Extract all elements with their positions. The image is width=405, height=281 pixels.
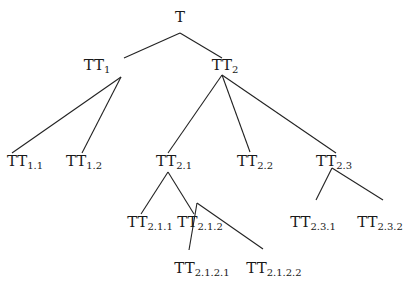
tree-node: TT1.2 [66, 152, 102, 171]
tree-edge [316, 168, 332, 200]
tree-node: TT2.3.2 [357, 213, 403, 232]
tree-edge [222, 75, 336, 153]
tree-node: TT2.1.2.1 [174, 259, 229, 278]
tree-edge [124, 33, 180, 58]
tree-edge [168, 172, 194, 214]
tree-node: TT2.2 [237, 152, 273, 171]
tree-node: TT2.1.1 [127, 213, 173, 232]
tree-node: TT1 [84, 56, 111, 75]
tree-edge [12, 77, 121, 153]
tree-edge [168, 75, 222, 153]
tree-nodes: TTT1TT2TT1.1TT1.2TT2.1TT2.2TT2.3TT2.1.1T… [7, 8, 403, 278]
tree-node: T [175, 8, 185, 26]
tree-diagram: TTT1TT2TT1.1TT1.2TT2.1TT2.2TT2.3TT2.1.1T… [0, 0, 405, 281]
tree-node: TT2.1.2.2 [246, 259, 301, 278]
tree-edge [180, 33, 222, 58]
tree-node: TT1.1 [7, 152, 43, 171]
tree-node: TT2.1 [156, 152, 192, 171]
tree-edge [141, 172, 168, 214]
tree-node: TT2.3.1 [290, 213, 336, 232]
tree-edge [82, 77, 121, 153]
tree-node: TT2.3 [316, 152, 352, 171]
tree-edge [222, 75, 250, 152]
tree-edge [332, 168, 383, 200]
tree-node: TT2 [212, 56, 239, 75]
tree-edges [12, 33, 383, 250]
